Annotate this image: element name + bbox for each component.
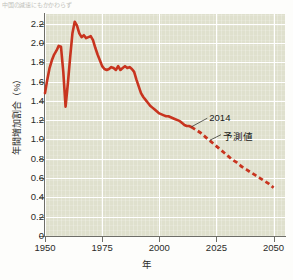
x-axis-label: 年 [0,257,293,271]
annotation-2014: 2014 [209,112,230,123]
leader-line-forecast [210,135,221,141]
annotation-forecast: 予測値 [223,129,253,143]
leader-line-2014 [191,118,207,127]
y-axis-label: 年間増加割合（%） [10,60,23,170]
chart-figure: 中国の減速にもかかわらず 1950197520002025205000.20.4… [0,0,293,280]
observed-line [45,22,191,127]
